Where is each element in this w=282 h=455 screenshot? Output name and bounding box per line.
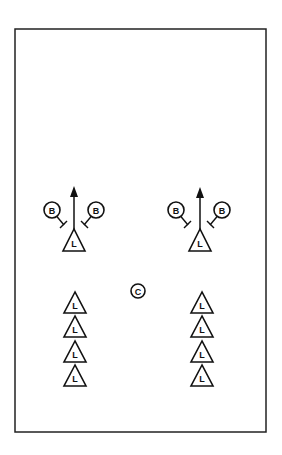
- player-marker: L: [64, 292, 86, 313]
- blocker-marker-label: B: [93, 206, 100, 216]
- coach-marker: C: [131, 284, 145, 298]
- player-marker-label: L: [199, 325, 205, 335]
- blocker-marker: B: [44, 202, 60, 218]
- left-line: LLLL: [64, 292, 86, 386]
- player-marker-label: L: [72, 301, 78, 311]
- blocker-marker: B: [214, 202, 230, 218]
- group-right: BBL: [168, 187, 230, 251]
- player-marker: L: [191, 316, 213, 337]
- field-boundary: [15, 29, 266, 432]
- player-marker-label: L: [199, 350, 205, 360]
- blocker-marker-label: B: [219, 206, 226, 216]
- player-marker: L: [191, 292, 213, 313]
- player-marker-label: L: [199, 374, 205, 384]
- player-marker: L: [64, 341, 86, 362]
- coach-marker-label: C: [135, 287, 142, 297]
- blocker-marker-label: B: [49, 206, 56, 216]
- drill-diagram: CBBLBBLLLLLLLLL: [0, 0, 282, 455]
- player-marker: L: [64, 365, 86, 386]
- blocker-marker: B: [88, 202, 104, 218]
- player-marker-label: L: [72, 374, 78, 384]
- player-marker-label: L: [72, 350, 78, 360]
- player-marker-label: L: [72, 325, 78, 335]
- player-marker-label: L: [199, 301, 205, 311]
- leader-marker: L: [63, 229, 85, 251]
- leader-marker: L: [189, 229, 211, 251]
- player-marker: L: [64, 316, 86, 337]
- leader-marker-label: L: [197, 239, 203, 249]
- group-left: BBL: [44, 186, 104, 251]
- leader-marker-label: L: [71, 239, 77, 249]
- player-marker: L: [191, 341, 213, 362]
- arrow-up-icon: [70, 186, 78, 197]
- blocker-marker: B: [168, 202, 184, 218]
- arrow-up-icon: [196, 187, 204, 198]
- right-line: LLLL: [191, 292, 213, 386]
- blocker-marker-label: B: [173, 206, 180, 216]
- player-marker: L: [191, 365, 213, 386]
